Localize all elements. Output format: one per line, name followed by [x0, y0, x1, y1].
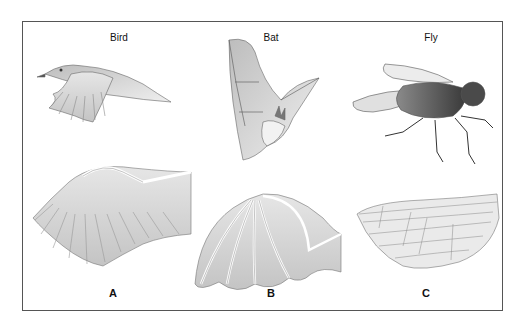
figure-frame: Bird Bat Fly: [22, 21, 503, 311]
bird-illustration: [37, 65, 171, 122]
bat-wing-illustration: [195, 194, 341, 290]
panel-letter-c: C: [422, 287, 430, 299]
fly-wing-illustration: [357, 194, 499, 268]
panel-letter-a: A: [109, 287, 117, 299]
panel-letter-b: B: [267, 287, 275, 299]
fly-illustration: [353, 64, 493, 164]
bat-illustration: [229, 39, 319, 160]
bird-wing-illustration: [33, 167, 191, 266]
illustrations: [23, 22, 504, 312]
